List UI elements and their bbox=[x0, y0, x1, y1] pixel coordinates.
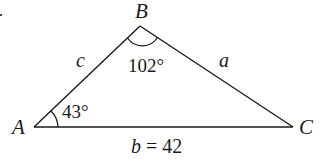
side-a-label: a bbox=[219, 50, 229, 70]
vertex-a-label: A bbox=[12, 117, 25, 138]
side-b-value: = 42 bbox=[141, 135, 182, 157]
side-b-label: b = 42 bbox=[131, 136, 182, 156]
side-b-variable: b bbox=[131, 135, 141, 157]
triangle-diagram: B A C c a 102° 43° b = 42 bbox=[0, 0, 321, 165]
angle-a-label: 43° bbox=[62, 102, 89, 121]
angle-b-label: 102° bbox=[128, 56, 164, 75]
side-a-line bbox=[140, 26, 293, 127]
vertex-c-label: C bbox=[299, 117, 313, 138]
angle-b-arc bbox=[128, 38, 158, 46]
angle-a-arc bbox=[51, 111, 58, 127]
side-c-label: c bbox=[76, 50, 85, 70]
vertex-b-label: B bbox=[135, 1, 148, 22]
